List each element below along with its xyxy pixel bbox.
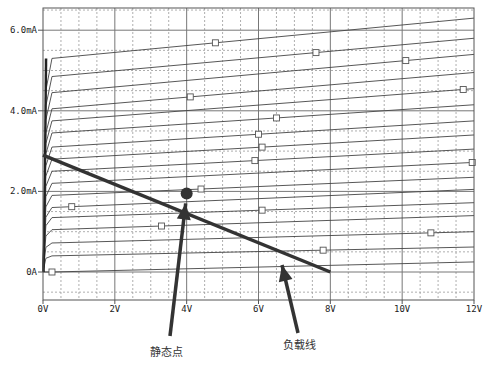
q-point: [181, 187, 193, 199]
curve-marker: [403, 58, 409, 64]
curve-marker: [259, 144, 265, 150]
curve-marker: [313, 50, 319, 56]
q-point-label: 静态点: [150, 345, 183, 359]
curve-marker: [320, 247, 326, 253]
y-tick-label: 4.0mA: [10, 106, 38, 116]
output-characteristic-chart: 0V2V4V6V8V10V12V 0A2.0mA4.0mA6.0mA 静态点 负…: [0, 0, 486, 365]
curve-marker: [69, 204, 75, 210]
x-tick-label: 4V: [181, 304, 192, 314]
y-tick-label: 0A: [26, 267, 37, 277]
grid: [43, 8, 474, 300]
x-tick-label: 8V: [325, 304, 336, 314]
x-tick-label: 0V: [38, 304, 49, 314]
load-line-label: 负载线: [283, 338, 316, 352]
curve-marker: [273, 115, 279, 121]
x-tick-label: 2V: [109, 304, 120, 314]
y-axis: 0A2.0mA4.0mA6.0mA: [10, 25, 43, 277]
y-tick-label: 6.0mA: [10, 25, 38, 35]
curve-marker: [187, 94, 193, 100]
curve-marker: [259, 207, 265, 213]
curve-marker: [256, 131, 262, 137]
curve-marker: [159, 223, 165, 229]
curve-marker: [198, 186, 204, 192]
curve-marker: [460, 86, 466, 92]
q-point-arrow-shaft: [170, 203, 186, 336]
x-tick-label: 12V: [466, 304, 483, 314]
y-tick-label: 2.0mA: [10, 186, 38, 196]
x-axis: 0V2V4V6V8V10V12V: [38, 300, 483, 314]
curve-marker: [428, 230, 434, 236]
curve-marker: [252, 158, 258, 164]
x-tick-label: 10V: [394, 304, 411, 314]
x-tick-label: 6V: [253, 304, 264, 314]
curve-marker: [212, 40, 218, 46]
curve-marker: [49, 269, 55, 275]
curve-markers: [49, 40, 475, 275]
